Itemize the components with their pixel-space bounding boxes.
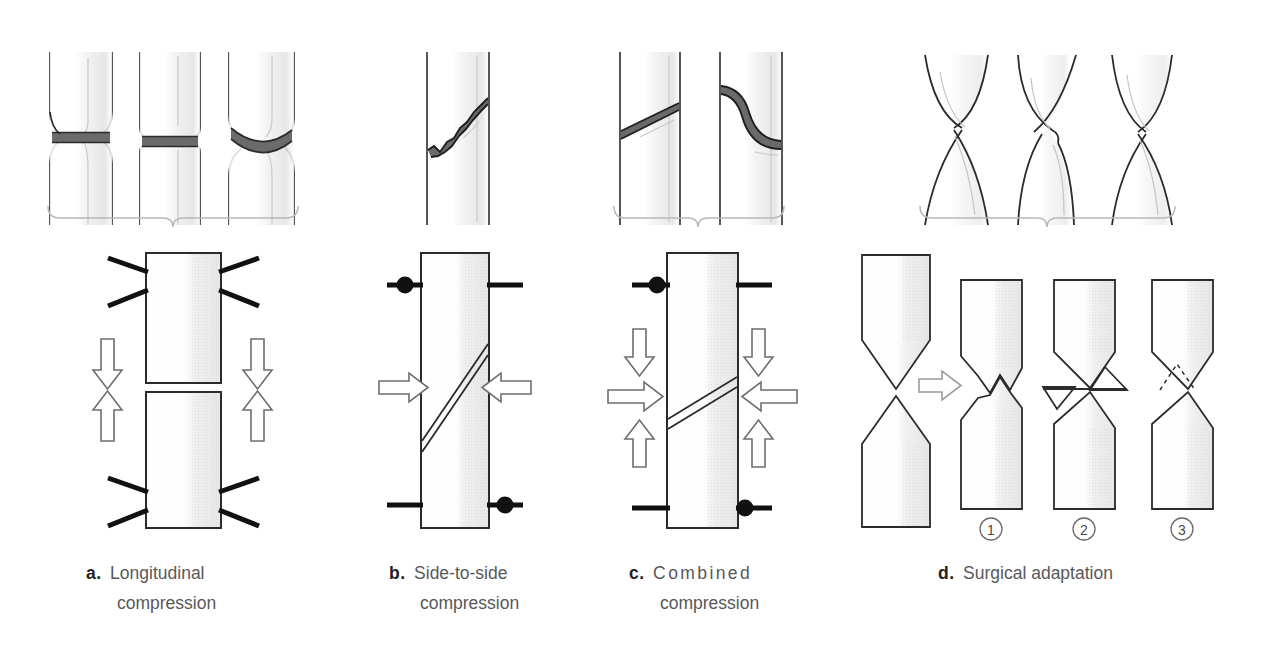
panel-b-bottom-diagram (379, 253, 531, 528)
caption-d-line1: d.Surgical adaptation (938, 558, 1113, 588)
variant-number-1: 1 (980, 518, 1002, 540)
panel-c-top-illustration (614, 52, 784, 227)
pin-knob-top-b (397, 277, 414, 294)
panel-c-bottom-diagram (608, 253, 797, 528)
block-lower-a (146, 392, 221, 528)
arrow-up-left-c (625, 420, 654, 467)
caption-d-letter: d (938, 563, 949, 583)
svg-text:2: 2 (1080, 522, 1088, 538)
arrow-down-left-c (625, 329, 654, 376)
arrow-down-left-a (93, 339, 122, 389)
panel-d-bottom-diagram: 1 2 3 (862, 255, 1213, 540)
variant-number-3: 3 (1171, 518, 1193, 540)
bone-oblique-c2 (720, 52, 782, 225)
panel-d-top-illustration (920, 55, 1175, 227)
svg-text:1: 1 (987, 522, 995, 538)
arrow-up-left-a (93, 391, 122, 441)
shape-variant-3 (1152, 280, 1213, 509)
arrow-right-c (608, 382, 663, 411)
caption-a-text1: Longitudinal (110, 563, 204, 583)
block-c (667, 253, 738, 528)
panel-a-top-illustration (48, 52, 298, 227)
shape-variant-1 (961, 280, 1022, 509)
caption-panel-a: a.Longitudinal compression (86, 558, 216, 618)
variant-number-2: 2 (1073, 518, 1095, 540)
caption-a-text2: compression (86, 588, 216, 618)
caption-b-dot: . (400, 563, 405, 583)
resected-wedge-left (1043, 387, 1075, 409)
panel-b-top-illustration (427, 52, 489, 225)
caption-a-line1: a.Longitudinal (86, 558, 216, 588)
arrow-up-right-a (243, 391, 272, 441)
figure-root: 1 2 3 a.Longitudinal compression b.Side-… (0, 0, 1264, 646)
caption-b-text1: Side-to-side (414, 563, 507, 583)
panel-a-bottom-diagram (93, 253, 272, 528)
caption-panel-d: d.Surgical adaptation (938, 558, 1113, 588)
bone-hourglass-1 (925, 55, 988, 225)
caption-c-letter: c (629, 563, 639, 583)
svg-text:3: 3 (1178, 522, 1186, 538)
transform-arrow-d (919, 371, 961, 400)
caption-c-line1: c.Combined (629, 558, 759, 588)
caption-a-letter: a (86, 563, 96, 583)
bone-oblique-b (427, 52, 489, 225)
bone-hourglass-3 (1112, 55, 1172, 225)
pin-knob-top-c (649, 277, 666, 294)
caption-panel-b: b.Side-to-side compression (389, 558, 519, 618)
bone-transverse-3 (229, 52, 294, 225)
caption-b-letter: b (389, 563, 400, 583)
pin-knob-bottom-b (497, 497, 514, 514)
caption-c-text1: Combined (653, 563, 752, 583)
bone-oblique-c1 (620, 52, 680, 225)
arrow-down-right-c (744, 329, 773, 376)
bone-transverse-1 (50, 52, 112, 225)
block-upper-a (146, 253, 221, 383)
block-b (421, 253, 489, 528)
caption-c-dot: . (639, 563, 644, 583)
caption-c-text2: compression (629, 588, 759, 618)
bone-hourglass-2 (1018, 55, 1076, 225)
pin-knob-bottom-c (737, 500, 754, 517)
caption-b-line1: b.Side-to-side (389, 558, 519, 588)
bone-transverse-2 (140, 52, 200, 225)
caption-d-text1: Surgical adaptation (963, 563, 1113, 583)
arrow-up-right-c (744, 420, 773, 467)
figure-canvas: 1 2 3 (0, 0, 1264, 646)
shape-variant-2 (1043, 280, 1127, 509)
arrow-down-right-a (243, 339, 272, 389)
arrow-left-c (742, 382, 797, 411)
caption-panel-c: c.Combined compression (629, 558, 759, 618)
caption-a-dot: . (96, 563, 101, 583)
caption-b-text2: compression (389, 588, 519, 618)
caption-d-dot: . (949, 563, 954, 583)
